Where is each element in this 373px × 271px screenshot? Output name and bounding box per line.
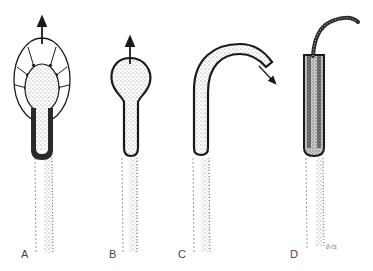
panel-d: ∂√s — [304, 18, 358, 250]
panel-label-d: D — [290, 248, 298, 260]
panel-b-shaft — [122, 158, 138, 252]
panel-label-b: B — [109, 248, 116, 260]
panel-a-shaft — [35, 158, 53, 253]
panel-c-tip-arrow — [259, 66, 274, 82]
panel-d-shaft: ∂√s — [306, 158, 337, 250]
panel-a-bulb — [25, 64, 59, 112]
panel-label-c: C — [178, 248, 186, 260]
panel-c-hook-tube — [194, 44, 272, 155]
panel-b-bulb — [112, 58, 151, 156]
panel-d-filament — [313, 18, 358, 56]
panel-b — [112, 40, 151, 252]
panel-c-shaft — [193, 158, 210, 252]
panel-a — [14, 20, 70, 253]
panel-c — [193, 44, 274, 252]
panel-label-a: A — [21, 248, 28, 260]
diagram-canvas: ∂√s — [0, 0, 373, 271]
svg-text:∂√s: ∂√s — [326, 243, 337, 250]
